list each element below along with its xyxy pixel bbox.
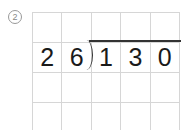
grid-row-work xyxy=(33,72,180,102)
grid-cell[interactable] xyxy=(62,13,91,43)
grid-cell[interactable] xyxy=(150,13,179,43)
grid-row-quotient xyxy=(33,13,180,43)
grid-cell[interactable] xyxy=(33,72,62,102)
grid-cell[interactable] xyxy=(150,72,179,102)
divisor-digit: 2 xyxy=(33,42,62,72)
grid-cell[interactable] xyxy=(121,102,150,130)
long-division-grid: 2 6 1 3 0 xyxy=(32,12,180,130)
grid-row-work xyxy=(33,102,180,130)
dividend-digit: 0 xyxy=(150,42,179,72)
grid-cell[interactable] xyxy=(150,102,179,130)
grid-cell[interactable] xyxy=(91,102,120,130)
grid-cell[interactable] xyxy=(121,13,150,43)
dividend-digit: 3 xyxy=(121,42,150,72)
grid-cell[interactable] xyxy=(91,72,120,102)
grid-cell[interactable] xyxy=(121,72,150,102)
division-bar xyxy=(89,40,181,42)
grid-cell[interactable] xyxy=(33,102,62,130)
grid-row-problem: 2 6 1 3 0 xyxy=(33,42,180,72)
grid-cell[interactable] xyxy=(33,13,62,43)
grid-cell[interactable] xyxy=(62,102,91,130)
grid-cell[interactable] xyxy=(62,72,91,102)
problem-number-badge: 2 xyxy=(8,10,22,24)
dividend-digit: 1 xyxy=(91,42,120,72)
grid-cell[interactable] xyxy=(91,13,120,43)
